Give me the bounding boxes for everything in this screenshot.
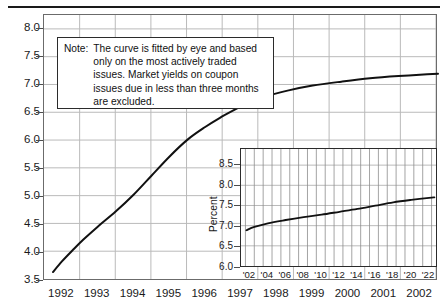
- main-y-tick-mark: [36, 84, 43, 85]
- note-line: are excluded.: [93, 95, 268, 108]
- main-x-tick-label: 1997: [216, 288, 264, 300]
- main-y-tick-mark: [36, 140, 43, 141]
- main-y-tick-mark: [36, 168, 43, 169]
- main-x-tick-label: 2002: [395, 288, 443, 300]
- main-y-tick-label: 3.5: [0, 274, 40, 286]
- main-y-tick-label: 4.5: [0, 218, 40, 230]
- main-x-tick-label: 2001: [359, 288, 407, 300]
- inset-yield-curve: [241, 149, 438, 268]
- main-y-tick-label: 6.5: [0, 106, 40, 118]
- main-x-tick-label: 1994: [109, 288, 157, 300]
- main-y-tick-mark: [36, 280, 43, 281]
- note-line: only on the most actively traded: [93, 55, 268, 68]
- inset-y-tick-mark: [234, 164, 240, 165]
- chart-note-box: Note: The curve is fitted by eye and bas…: [57, 37, 274, 109]
- note-line: The curve is fitted by eye and based: [93, 42, 268, 55]
- inset-y-tick-mark: [234, 205, 240, 206]
- inset-x-tick-label: '22: [417, 270, 439, 280]
- inset-y-tick-mark: [234, 185, 240, 186]
- main-x-tick-label: 1998: [252, 288, 300, 300]
- main-y-tick-label: 5.5: [0, 162, 40, 174]
- inset-y-axis-title: Percent: [208, 197, 219, 233]
- main-x-tick-label: 1992: [37, 288, 85, 300]
- main-x-tick-label: 2000: [323, 288, 371, 300]
- inset-y-tick-label: 8.5: [203, 159, 233, 169]
- note-line: issues. Market yields on coupon: [93, 68, 268, 81]
- main-x-tick-label: 1993: [73, 288, 121, 300]
- main-y-tick-mark: [36, 252, 43, 253]
- note-line: issues due in less than three months: [93, 82, 268, 95]
- note-label: Note:: [64, 42, 93, 108]
- main-x-tick-label: 1995: [144, 288, 192, 300]
- main-y-tick-label: 7.0: [0, 78, 40, 90]
- main-y-tick-label: 4.0: [0, 246, 40, 258]
- main-y-tick-mark: [36, 28, 43, 29]
- inset-y-tick-label: 6.5: [203, 241, 233, 251]
- main-y-tick-mark: [36, 56, 43, 57]
- inset-y-tick-label: 8.0: [203, 180, 233, 190]
- top-divider-rule: [8, 6, 440, 8]
- main-y-tick-label: 7.5: [0, 50, 40, 62]
- inset-y-tick-label: 6.0: [203, 262, 233, 272]
- inset-y-tick-mark: [234, 246, 240, 247]
- note-text: The curve is fitted by eye and based onl…: [93, 42, 268, 108]
- inset-plot-area: [240, 148, 437, 267]
- yield-curve-figure: 8.07.57.06.56.05.55.04.54.03.51992199319…: [0, 0, 446, 305]
- main-y-tick-mark: [36, 196, 43, 197]
- main-x-tick-label: 1996: [180, 288, 228, 300]
- main-y-tick-label: 6.0: [0, 134, 40, 146]
- inset-y-tick-mark: [234, 226, 240, 227]
- main-y-tick-mark: [36, 224, 43, 225]
- main-y-tick-label: 5.0: [0, 190, 40, 202]
- inset-y-tick-mark: [234, 267, 240, 268]
- main-y-tick-mark: [36, 112, 43, 113]
- main-x-tick-label: 1999: [288, 288, 336, 300]
- main-y-tick-label: 8.0: [0, 22, 40, 34]
